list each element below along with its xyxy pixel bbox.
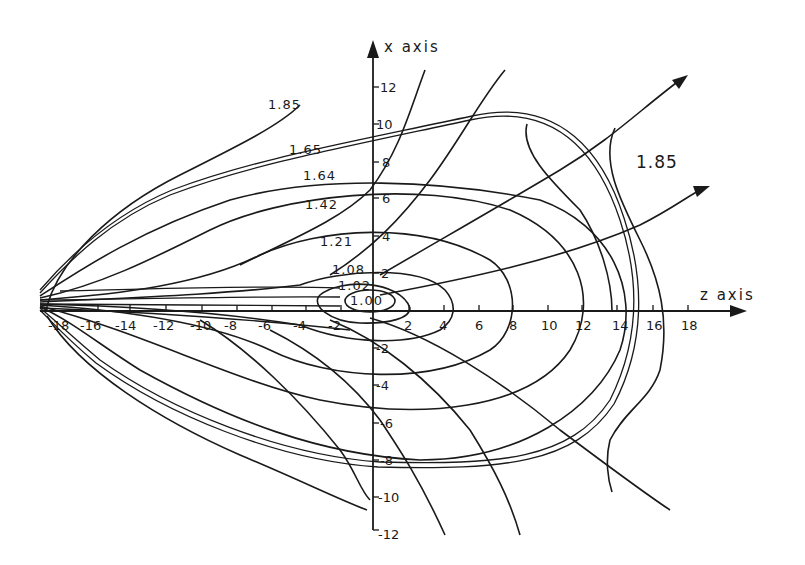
label-1-02: 1.02 [338,278,371,293]
svg-text:-4: -4 [376,378,389,393]
svg-text:6: 6 [475,318,483,333]
z-axis-arrow-icon [730,305,747,317]
svg-text:12: 12 [380,80,397,95]
label-1-85-left: 1.85 [268,97,301,112]
x-axis-title: x axis [384,38,440,56]
field-line-lower-3 [370,318,670,510]
label-1-64: 1.64 [303,168,336,183]
svg-text:-12: -12 [378,527,399,542]
contour-121 [40,232,513,374]
contour-185-right [607,128,664,492]
label-1-42: 1.42 [305,197,338,212]
svg-text:18: 18 [681,318,698,333]
svg-text:-8: -8 [224,318,237,333]
svg-text:10: 10 [376,117,393,132]
contour-185-right-inner [526,124,612,311]
label-1-08: 1.08 [332,262,365,277]
label-1-21: 1.21 [320,234,353,249]
svg-text:10: 10 [541,318,558,333]
field-line-steep-2 [330,70,505,275]
label-1-65: 1.65 [289,142,322,157]
arrow-head-icon [693,186,710,197]
label-1-00: 1.00 [350,293,383,308]
contour-142 [40,194,584,409]
contour-diagram: x axis z axis -18 -16 -14 -12 -10 -8 -6 … [0,0,805,565]
svg-text:16: 16 [646,318,663,333]
arrow-head-icon [672,75,688,89]
field-line-arrow-1 [380,80,680,275]
z-axis-title: z axis [700,286,755,304]
label-1-85-right: 1.85 [636,152,678,172]
svg-text:-10: -10 [378,490,399,505]
z-axis [40,305,747,317]
x-axis-arrow-icon [367,40,379,58]
field-line-lower-2 [330,320,520,535]
svg-text:12: 12 [575,318,592,333]
field-line-lower-4 [200,320,370,500]
svg-text:-8: -8 [380,453,393,468]
svg-text:8: 8 [382,155,390,170]
contour-185-left-lower [47,316,367,510]
contour-185-left [47,105,300,306]
